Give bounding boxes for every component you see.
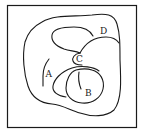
diagram-figure: A B C D bbox=[0, 0, 145, 136]
label-b: B bbox=[85, 88, 92, 98]
region-d-outline bbox=[80, 37, 119, 53]
middle-loop-outline bbox=[53, 67, 99, 97]
upper-lobe-outline bbox=[52, 27, 93, 53]
label-a: A bbox=[45, 69, 53, 79]
label-d: D bbox=[100, 26, 107, 36]
region-b-hook bbox=[79, 72, 81, 89]
label-c: C bbox=[76, 54, 83, 64]
